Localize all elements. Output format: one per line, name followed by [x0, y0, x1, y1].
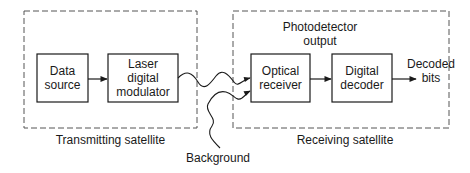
data-source-line2: source [37, 78, 88, 92]
digital-decoder-line1: Digital [332, 64, 392, 78]
decoded-bits-line1: Decoded [393, 57, 469, 71]
laser-modulator-line1: Laser [108, 57, 178, 71]
data-source-label: Data source [37, 64, 88, 92]
optical-receiver-line1: Optical [251, 64, 310, 78]
optical-signal-wave [178, 72, 250, 86]
optical-receiver-label: Optical receiver [251, 64, 310, 92]
photodetector-line1: Photodetector [270, 20, 370, 34]
digital-decoder-line2: decoder [332, 78, 392, 92]
photodetector-output-annotation: Photodetector output [270, 20, 370, 48]
receiving-satellite-label: Receiving satellite [250, 133, 440, 147]
transmitting-satellite-label: Transmitting satellite [24, 133, 197, 147]
laser-modulator-line3: modulator [108, 85, 178, 99]
decoded-bits-line2: bits [393, 71, 469, 85]
digital-decoder-label: Digital decoder [332, 64, 392, 92]
laser-modulator-label: Laser digital modulator [108, 57, 178, 99]
background-noise-label: Background [168, 151, 268, 165]
optical-receiver-line2: receiver [251, 78, 310, 92]
laser-modulator-line2: digital [108, 71, 178, 85]
background-noise-wave [207, 91, 250, 148]
photodetector-line2: output [270, 34, 370, 48]
data-source-line1: Data [37, 64, 88, 78]
decoded-bits-label: Decoded bits [393, 57, 469, 85]
